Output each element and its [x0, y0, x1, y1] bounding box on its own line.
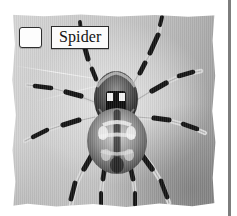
vertical-divider — [228, 0, 231, 216]
label-name-text: Spider — [59, 29, 101, 45]
labeled-photo-card: Spider — [0, 0, 237, 216]
label-row: Spider — [19, 26, 109, 49]
label-name-box[interactable]: Spider — [51, 26, 109, 49]
checkbox-unchecked-icon[interactable] — [19, 27, 42, 48]
